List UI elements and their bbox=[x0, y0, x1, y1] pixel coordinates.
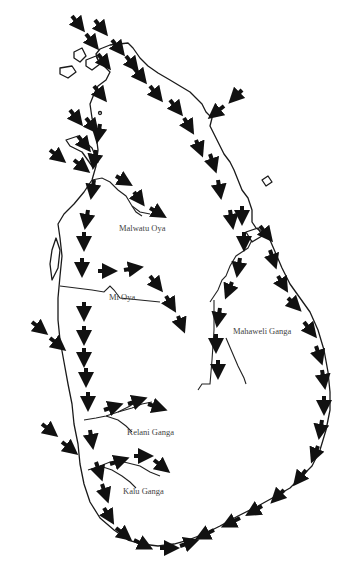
sri-lanka-map bbox=[0, 0, 360, 570]
coastline bbox=[50, 43, 330, 546]
flow-arrows bbox=[32, 16, 324, 548]
river-label-mahaweli-ganga: Mahaweli Ganga bbox=[233, 326, 291, 336]
river-label-malwatu-oya: Malwatu Oya bbox=[119, 223, 166, 233]
river-label-mi-oya: Mi Oya bbox=[109, 292, 135, 302]
river-label-kalu-ganga: Kalu Ganga bbox=[123, 486, 164, 496]
river-label-kelani-ganga: Kelani Ganga bbox=[127, 427, 174, 437]
